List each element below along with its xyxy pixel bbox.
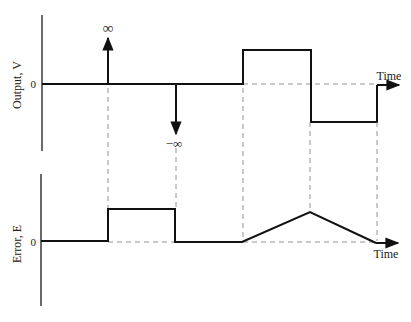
error-time-label: Time (374, 247, 399, 261)
error-signal (41, 209, 376, 243)
time-guides (108, 88, 377, 241)
error-zero-label: 0 (31, 236, 37, 248)
error-panel: Error, E 0 Time (10, 174, 398, 306)
output-y-label: Output, V (10, 61, 24, 109)
output-signal (42, 50, 377, 122)
positive-infinity-label: ∞ (103, 20, 114, 36)
output-zero-label: 0 (31, 78, 37, 90)
output-time-label: Time (377, 69, 402, 83)
timing-diagram: Output, V 0 Time ∞ −∞ Error, E 0 Tim (0, 0, 411, 322)
negative-infinity-label: −∞ (166, 136, 183, 151)
output-panel: Output, V 0 Time ∞ −∞ (10, 15, 401, 151)
error-y-label: Error, E (10, 225, 24, 263)
